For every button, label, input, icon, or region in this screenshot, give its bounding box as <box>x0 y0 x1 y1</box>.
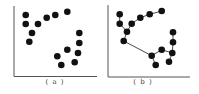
data-point <box>146 11 153 18</box>
data-point <box>152 62 159 69</box>
data-point <box>120 38 127 45</box>
data-point <box>169 50 176 57</box>
data-point <box>158 8 165 15</box>
data-point <box>58 62 65 69</box>
data-point <box>71 59 78 66</box>
panel-b-points <box>116 8 176 69</box>
panel-a <box>14 6 97 77</box>
data-point <box>124 28 131 35</box>
panel-a-points <box>22 8 82 68</box>
graph-edge <box>124 41 152 56</box>
data-point <box>76 40 83 47</box>
data-point <box>52 12 59 19</box>
data-point <box>166 58 173 65</box>
panel-b <box>108 5 190 77</box>
data-point <box>75 50 82 57</box>
data-point <box>64 46 71 53</box>
data-point <box>22 21 29 28</box>
panel-b-edges <box>120 11 173 65</box>
data-point <box>64 8 71 15</box>
data-point <box>76 30 83 37</box>
data-point <box>128 20 135 27</box>
panel-a-caption: ( a ) <box>45 78 64 86</box>
figure-canvas <box>0 0 199 94</box>
data-point <box>170 39 177 46</box>
data-point <box>170 29 177 36</box>
data-point <box>116 20 123 27</box>
data-point <box>26 38 33 45</box>
panel-b-caption: ( b ) <box>133 78 152 86</box>
data-point <box>22 12 29 19</box>
data-point <box>158 46 165 53</box>
data-point <box>116 11 123 18</box>
data-point <box>148 52 155 59</box>
data-point <box>137 14 144 21</box>
data-point <box>29 30 36 37</box>
data-point <box>54 53 61 60</box>
data-point <box>43 14 50 21</box>
data-point <box>35 21 42 28</box>
